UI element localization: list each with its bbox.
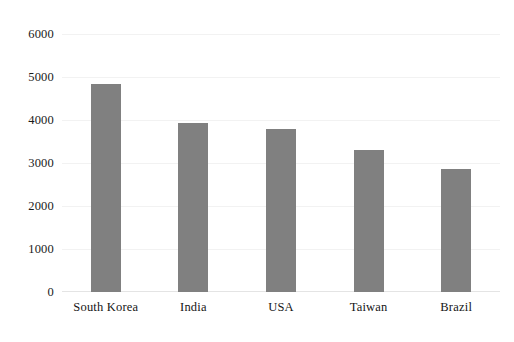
- y-tick-label: 2000: [28, 199, 54, 214]
- x-tick-label-india: India: [180, 300, 207, 315]
- bar-south-korea: [91, 84, 121, 292]
- bar-usa: [266, 129, 296, 292]
- y-tick-label: 3000: [28, 156, 54, 171]
- y-tick-label: 5000: [28, 70, 54, 85]
- bar-taiwan: [354, 150, 384, 292]
- x-tick-label-south-korea: South Korea: [73, 300, 138, 315]
- y-tick-label: 4000: [28, 113, 54, 128]
- bar-india: [178, 123, 208, 292]
- y-axis-tick-labels: 0100020003000400050006000: [0, 34, 54, 292]
- x-tick-label-brazil: Brazil: [440, 300, 472, 315]
- y-tick-label: 1000: [28, 242, 54, 257]
- y-tick-label: 6000: [28, 27, 54, 42]
- x-tick-label-taiwan: Taiwan: [350, 300, 388, 315]
- x-tick-label-usa: USA: [268, 300, 294, 315]
- bars: [62, 34, 500, 292]
- bar-brazil: [441, 169, 471, 292]
- bar-chart: 0100020003000400050006000 South KoreaInd…: [0, 0, 514, 342]
- y-tick-label: 0: [48, 285, 54, 300]
- plot-area: [62, 34, 500, 292]
- x-axis-tick-labels: South KoreaIndiaUSATaiwanBrazil: [62, 296, 500, 326]
